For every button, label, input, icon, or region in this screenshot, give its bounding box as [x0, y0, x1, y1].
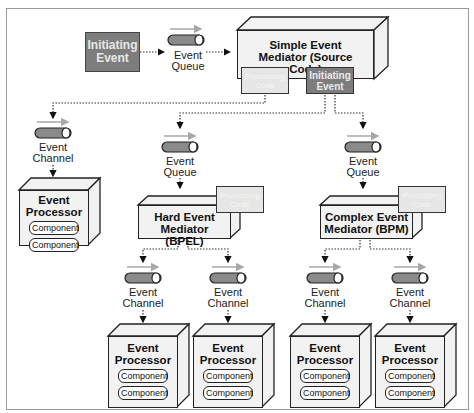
hard-mediator-title: Hard Event Mediator (BPEL)	[141, 211, 229, 247]
complex-event-queue-label: Event Queue	[335, 156, 391, 178]
component-pill: Component	[203, 386, 253, 400]
component-pill: Component	[118, 369, 168, 383]
simple-mediator-processing-code: Processing Code	[241, 67, 289, 94]
component-pill: Component	[29, 221, 79, 235]
hard-queue-pipe-icon	[162, 136, 198, 152]
channel-pipe-icon	[210, 267, 246, 283]
component-pill: Component	[300, 369, 350, 383]
channel-pipe-icon	[307, 267, 343, 283]
processor-title: Event Processor	[295, 342, 355, 366]
hard-event-queue-label: Event Queue	[152, 156, 208, 178]
left-channel-pipe-icon	[35, 122, 71, 138]
event-channel-label: Event Channel	[382, 287, 438, 309]
processor-title: Event Processor	[24, 194, 84, 218]
component-pill: Component	[385, 386, 435, 400]
processor-title: Event Processor	[380, 342, 440, 366]
processor-title: Event Processor	[198, 342, 258, 366]
event-channel-label: Event Channel	[115, 287, 171, 309]
top-event-queue-label: Event Queue	[160, 50, 216, 72]
left-event-channel-label: Event Channel	[25, 142, 81, 164]
top-queue-pipe-icon	[168, 29, 204, 45]
channel-pipe-icon	[125, 267, 161, 283]
simple-mediator-initiating-event: Initiating Event	[306, 67, 354, 94]
processor-title: Event Processor	[113, 342, 173, 366]
component-pill: Component	[118, 386, 168, 400]
component-pill: Component	[29, 238, 79, 252]
event-channel-label: Event Channel	[200, 287, 256, 309]
component-pill: Component	[385, 369, 435, 383]
component-pill: Component	[203, 369, 253, 383]
component-pill: Component	[300, 386, 350, 400]
initiating-event-box: Initiating Event	[85, 32, 140, 72]
channel-pipe-icon	[392, 267, 428, 283]
complex-mediator-title: Complex Event Mediator (BPM)	[323, 211, 411, 235]
event-channel-label: Event Channel	[297, 287, 353, 309]
complex-queue-pipe-icon	[345, 136, 381, 152]
hard-mediator-processing-code: Processing Code	[216, 186, 264, 213]
complex-mediator-processing-code: Processing Code	[398, 186, 446, 213]
